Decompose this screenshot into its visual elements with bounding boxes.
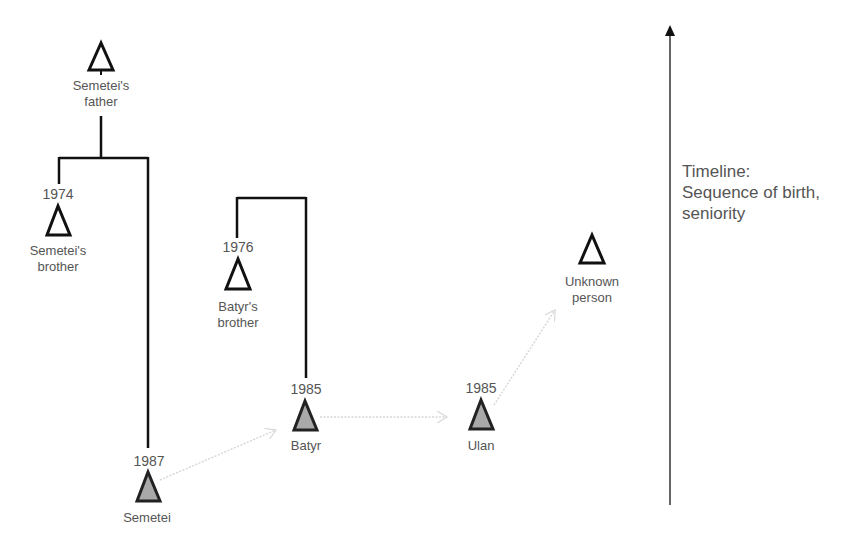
node-batyr-brother-triangle [226,259,250,289]
timeline-caption-line: Timeline: [682,161,820,182]
timeline-arrow [665,25,675,505]
node-batyr-triangle [294,401,317,430]
timeline-caption: Timeline: Sequence of birth, seniority [682,161,820,224]
label-line: Semetei [123,510,171,526]
node-semetei-father-triangle [89,43,113,75]
timeline-caption-line: seniority [682,203,820,224]
label-line: Semetei's [73,78,130,94]
label-line: Batyr [291,438,321,454]
label-line: person [565,290,619,306]
year-batyr-brother: 1976 [222,239,253,255]
node-semetei-brother-triangle [47,206,70,235]
label-batyr: Batyr [291,438,321,454]
diagram-svg [0,0,865,546]
node-unknown-triangle [580,235,604,263]
label-line: Semetei's [30,243,87,259]
label-line: Unknown [565,274,619,290]
label-semetei-father: Semetei's father [73,78,130,110]
label-line: father [73,94,130,110]
kinship-diagram: Semetei's father 1974 Semetei's brother … [0,0,865,546]
year-semetei: 1987 [133,453,164,469]
label-line: brother [217,315,258,331]
arrow-semetei-to-batyr [160,430,276,480]
node-ulan-triangle [470,400,493,429]
label-semetei: Semetei [123,510,171,526]
label-line: Ulan [468,438,495,454]
label-batyr-brother: Batyr's brother [217,299,258,331]
year-semetei-brother: 1974 [42,186,73,202]
label-line: Batyr's [217,299,258,315]
year-ulan: 1985 [465,380,496,396]
arrow-ulan-to-unknown [494,310,555,405]
label-line: brother [30,259,87,275]
label-unknown-person: Unknown person [565,274,619,306]
label-ulan: Ulan [468,438,495,454]
node-semetei-triangle [137,472,160,501]
year-batyr: 1985 [290,381,321,397]
timeline-caption-line: Sequence of birth, [682,182,820,203]
sibling-bracket-semetei [59,116,148,448]
label-semetei-brother: Semetei's brother [30,243,87,275]
